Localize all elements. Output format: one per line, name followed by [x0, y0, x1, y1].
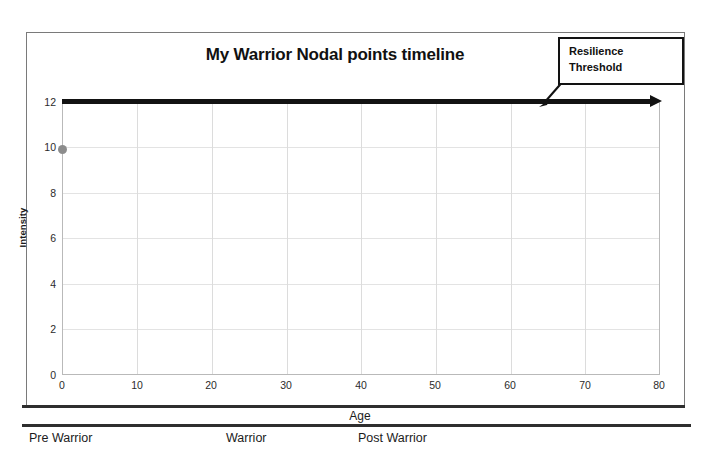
- y-tick-2: 2: [12, 323, 56, 335]
- divider-rule-bottom: [22, 424, 691, 427]
- callout-line-2: Threshold: [569, 59, 682, 75]
- resilience-threshold-callout: Resilience Threshold: [558, 37, 684, 85]
- x-tick-50: 50: [415, 379, 455, 391]
- y-tick-4: 4: [12, 278, 56, 290]
- x-tick-80: 80: [639, 379, 679, 391]
- gridline-v-10: [137, 102, 138, 374]
- x-tick-70: 70: [565, 379, 605, 391]
- screenshot-root: My Warrior Nodal points timeline 12 10 8…: [0, 0, 709, 456]
- y-axis-title: Intensity: [17, 193, 28, 263]
- y-tick-12: 12: [12, 96, 56, 108]
- divider-rule-top: [22, 405, 685, 408]
- stage-label-warrior: Warrior: [226, 431, 267, 445]
- x-tick-0: 0: [42, 379, 82, 391]
- gridline-v-50: [436, 102, 437, 374]
- y-tick-10: 10: [12, 141, 56, 153]
- resilience-threshold-line: [62, 99, 654, 104]
- stage-label-post-warrior: Post Warrior: [358, 431, 427, 445]
- x-tick-30: 30: [266, 379, 306, 391]
- gridline-v-60: [511, 102, 512, 374]
- nodal-point-marker: [58, 145, 67, 154]
- gridline-v-70: [585, 102, 586, 374]
- chart-title: My Warrior Nodal points timeline: [120, 45, 550, 65]
- stage-label-pre-warrior: Pre Warrior: [29, 431, 92, 445]
- threshold-arrow-icon: [650, 95, 662, 107]
- x-axis-title: Age: [280, 409, 440, 423]
- y-axis-tick-labels: 12 10 8 6 4 2 0: [0, 102, 56, 375]
- plot-area: [62, 102, 660, 375]
- callout-line-1: Resilience: [569, 43, 682, 59]
- x-tick-60: 60: [490, 379, 530, 391]
- x-tick-20: 20: [191, 379, 231, 391]
- x-tick-40: 40: [341, 379, 381, 391]
- gridline-v-40: [361, 102, 362, 374]
- x-axis-tick-labels: 0 10 20 30 40 50 60 70 80: [62, 379, 660, 395]
- x-tick-10: 10: [117, 379, 157, 391]
- gridline-v-30: [287, 102, 288, 374]
- gridline-v-20: [212, 102, 213, 374]
